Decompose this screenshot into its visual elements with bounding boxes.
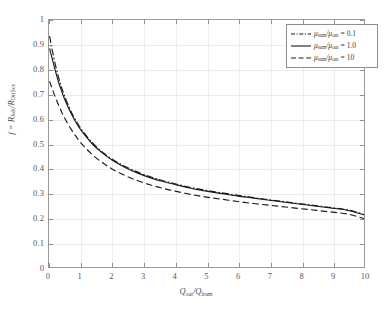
x-tick-mark [208,20,209,24]
y-tick-label: 0.4 [18,163,44,173]
y-tick-mark [49,219,53,220]
legend-equals: = [339,29,347,38]
x-tick-label: 3 [131,271,155,281]
y-tick-label: 0.6 [18,114,44,124]
legend-value: 0.1 [347,29,356,38]
x-axis-label: Qout/Qfrum [0,286,392,297]
x-tick-label: 6 [226,271,250,281]
legend-value: 1.0 [347,41,356,50]
y-tick-mark [360,244,364,245]
y-tick-mark [49,120,53,121]
y-tick-label: 0.8 [18,64,44,74]
x-tick-label: 8 [290,271,314,281]
x-tick-mark [176,20,177,24]
x-axis-label-sub1: out [186,291,193,297]
y-tick-mark [360,169,364,170]
x-tick-label: 10 [353,271,377,281]
y-tick-label: 0.9 [18,39,44,49]
legend-line-sample-dashed [290,53,312,63]
legend-equals: = [339,53,347,62]
legend-mu-numerator-sub: sum [318,57,327,63]
y-tick-mark [49,95,53,96]
x-tick-mark [176,263,177,267]
y-axis-label: f = RJoK/ROrifice [6,54,17,164]
y-axis-label-sub1: JoK [10,108,16,117]
y-tick-mark [360,120,364,121]
y-tick-label: 0.7 [18,89,44,99]
x-tick-mark [208,263,209,267]
x-tick-label: 4 [163,271,187,281]
x-tick-mark [334,263,335,267]
x-tick-label: 7 [258,271,282,281]
x-tick-label: 2 [99,271,123,281]
y-tick-label: 0.3 [18,188,44,198]
x-tick-mark [81,263,82,267]
x-tick-mark [81,20,82,24]
x-tick-mark [49,263,50,267]
y-tick-mark [49,244,53,245]
x-tick-label: 9 [321,271,345,281]
y-tick-label: 0 [18,263,44,273]
x-tick-mark [239,20,240,24]
x-tick-mark [271,20,272,24]
x-tick-label: 5 [195,271,219,281]
y-tick-mark [360,219,364,220]
legend-item[interactable]: μsum/μout = 1.0 [290,40,373,52]
y-axis-label-prefix: f = R [6,117,16,135]
legend-equals: = [339,41,347,50]
legend-line-sample-solid [290,41,312,51]
x-tick-mark [303,263,304,267]
y-tick-mark [360,145,364,146]
y-tick-mark [49,45,53,46]
y-tick-label: 0.1 [18,238,44,248]
legend-label: μsum/μout = 1.0 [314,41,356,50]
legend-item[interactable]: μsum/μout = 10 [290,52,373,64]
y-tick-mark [49,169,53,170]
legend-line-sample-dashdot [290,29,312,39]
y-axis-label-sub2: Orifice [10,84,16,100]
y-tick-mark [360,20,364,21]
y-tick-mark [49,145,53,146]
y-tick-mark [360,95,364,96]
legend-mu-numerator-sub: sum [318,33,327,39]
y-tick-label: 1 [18,14,44,24]
y-tick-mark [49,70,53,71]
x-axis-label-sub2: frum [201,291,212,297]
legend-value: 10 [347,53,355,62]
y-tick-mark [49,194,53,195]
x-tick-mark [144,263,145,267]
curve-dashed-10 [50,81,364,218]
x-tick-mark [144,20,145,24]
chart-figure: 012345678910 00.10.20.30.40.50.60.70.80.… [0,0,392,312]
x-tick-mark [271,263,272,267]
y-tick-label: 0.5 [18,139,44,149]
legend-box: μsum/μout = 0.1μsum/μout = 1.0μsum/μout … [286,24,378,68]
y-tick-mark [49,20,53,21]
legend-label: μsum/μout = 10 [314,53,354,62]
legend-mu-numerator-sub: sum [318,45,327,51]
y-tick-mark [360,194,364,195]
x-tick-label: 1 [68,271,92,281]
y-axis-label-slash: /R [6,100,16,108]
x-tick-mark [239,263,240,267]
x-tick-mark [112,20,113,24]
legend-label: μsum/μout = 0.1 [314,29,356,38]
x-tick-mark [112,263,113,267]
y-tick-mark [360,70,364,71]
y-tick-label: 0.2 [18,213,44,223]
legend-item[interactable]: μsum/μout = 0.1 [290,28,373,40]
